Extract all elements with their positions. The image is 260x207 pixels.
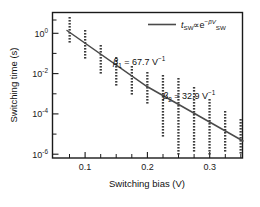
svg-text:100: 100 xyxy=(34,27,48,39)
y-ticklabel-base-1: 10 xyxy=(32,69,42,79)
fit-line xyxy=(67,31,243,142)
data-series-switching-time xyxy=(69,17,242,155)
beta1-value: 67.7 xyxy=(132,57,150,67)
legend-label: tSW∝e−βVSW xyxy=(181,18,226,32)
beta2-unit-exp: −1 xyxy=(208,89,216,96)
x-axis-label: Switching bias (V) xyxy=(109,178,185,189)
data-point-errorbar xyxy=(208,99,210,155)
x-ticklabel-1: 0.2 xyxy=(141,162,154,172)
data-point-errorbar xyxy=(177,78,179,155)
data-point-errorbar xyxy=(100,45,102,74)
beta1-equals: = xyxy=(122,57,132,67)
data-point-errorbar xyxy=(240,119,242,154)
annotation-beta2: β2 = 32.9 V−1 xyxy=(162,89,216,103)
y-ticklabel-base-2: 10 xyxy=(32,109,42,119)
svg-text:10-2: 10-2 xyxy=(32,67,48,79)
chart-svg: 100 10-2 10-4 10-6 xyxy=(0,0,260,207)
y-ticklabel-exp-1: -2 xyxy=(42,67,48,74)
beta2-equals: = xyxy=(172,91,182,101)
svg-text:10-4: 10-4 xyxy=(32,107,48,119)
y-ticklabel-exp-3: -6 xyxy=(42,148,48,155)
legend: tSW∝e−βVSW xyxy=(148,18,226,32)
data-point-errorbar xyxy=(162,75,164,137)
annotation-beta1: β1 = 67.7 V−1 xyxy=(112,55,166,69)
y-ticklabel-base-0: 10 xyxy=(34,29,44,39)
data-point-errorbar xyxy=(131,66,133,95)
beta1-unit-exp: −1 xyxy=(158,55,166,62)
data-point-errorbar xyxy=(69,17,71,43)
x-ticklabel-0: 0.1 xyxy=(79,162,92,172)
y-ticklabel-exp-2: -4 xyxy=(42,107,48,114)
beta2-value: 32.9 xyxy=(182,91,200,101)
y-axis-label: Switching time (s) xyxy=(8,48,19,123)
y-ticklabel-exp-0: 0 xyxy=(44,27,48,34)
legend-v-sub: SW xyxy=(216,24,226,31)
figure-container: 100 10-2 10-4 10-6 xyxy=(0,0,260,207)
x-axis-tick-labels: 0.1 0.2 0.3 xyxy=(79,162,216,172)
y-ticklabel-base-3: 10 xyxy=(32,150,42,160)
legend-t-sub: SW xyxy=(184,24,194,31)
svg-text:10-6: 10-6 xyxy=(32,148,48,160)
x-axis-major-ticks xyxy=(85,152,210,158)
y-axis-tick-labels: 100 10-2 10-4 10-6 xyxy=(32,27,48,160)
x-ticklabel-2: 0.3 xyxy=(203,162,216,172)
